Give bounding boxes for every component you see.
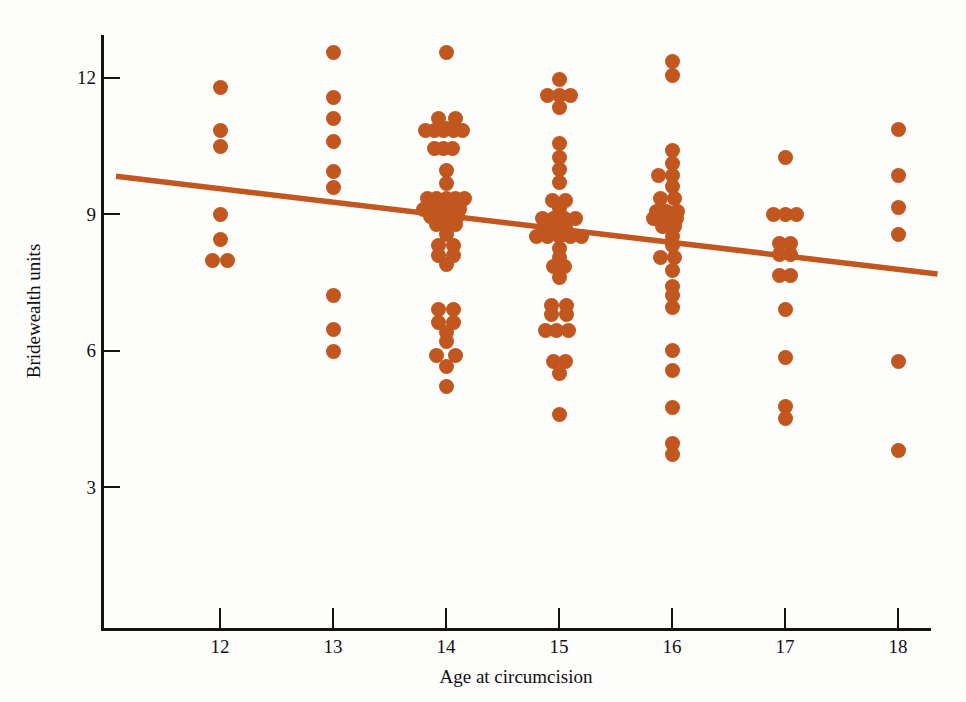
trendline — [0, 0, 966, 702]
scatter-plot-figure: 36912 12131415161718 Bridewealth units A… — [0, 0, 966, 702]
